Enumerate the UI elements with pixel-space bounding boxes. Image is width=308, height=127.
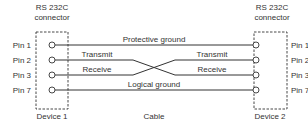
- left-pin-7-label: Pin 7: [13, 86, 32, 95]
- right-pin-3-terminal-icon: [253, 72, 259, 78]
- right-pin-2-label: Pin 2: [291, 56, 308, 65]
- left-pin-1-terminal-icon: [49, 42, 55, 48]
- null-modem-diagram: RS 232C connector RS 232C connector Pin …: [0, 0, 308, 127]
- left-transmit-label: Transmit: [82, 50, 114, 59]
- protective-ground-label: Protective ground: [123, 35, 186, 44]
- right-pin-1-label: Pin 1: [291, 41, 308, 50]
- device-2-label: Device 2: [254, 112, 286, 121]
- right-pin-7-label: Pin 7: [291, 86, 308, 95]
- left-pin-1-label: Pin 1: [13, 41, 32, 50]
- cable-label: Cable: [144, 112, 165, 121]
- right-pin-2-terminal-icon: [253, 57, 259, 63]
- left-connector-label-line2: connector: [34, 13, 69, 22]
- device-1-label: Device 1: [36, 112, 68, 121]
- left-connector-label-line1: RS 232C: [36, 3, 69, 12]
- right-pin-1-terminal-icon: [253, 42, 259, 48]
- left-receive-label: Receive: [83, 65, 112, 74]
- left-pin-7-terminal-icon: [49, 87, 55, 93]
- left-pin-3-terminal-icon: [49, 72, 55, 78]
- right-pin-7-terminal-icon: [253, 87, 259, 93]
- logical-ground-label: Logical ground: [128, 80, 180, 89]
- left-pin-2-label: Pin 2: [13, 56, 32, 65]
- right-pin-3-label: Pin 3: [291, 71, 308, 80]
- left-pin-3-label: Pin 3: [13, 71, 32, 80]
- right-transmit-label: Transmit: [197, 50, 229, 59]
- right-receive-label: Receive: [198, 65, 227, 74]
- right-connector-label-line1: RS 232C: [256, 3, 289, 12]
- right-connector-label-line2: connector: [254, 13, 289, 22]
- left-pin-2-terminal-icon: [49, 57, 55, 63]
